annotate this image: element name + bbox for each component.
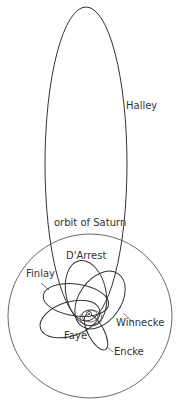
faye-label: Faye — [64, 331, 87, 341]
halley-label: Halley — [126, 101, 157, 111]
comet-orbits-diagram — [0, 0, 183, 411]
sun-dot — [88, 313, 90, 315]
encke-leader — [107, 347, 113, 352]
darrest-label: D'Arrest — [66, 251, 106, 261]
halley-orbit — [45, 7, 127, 321]
finlay-label: Finlay — [26, 269, 55, 279]
finlay-leader — [41, 283, 49, 290]
winnecke-label: Winnecke — [116, 318, 164, 328]
saturn-orbit-label: orbit of Saturn — [54, 218, 126, 228]
encke-label: Encke — [114, 347, 144, 357]
darrest-orbit — [60, 257, 113, 330]
